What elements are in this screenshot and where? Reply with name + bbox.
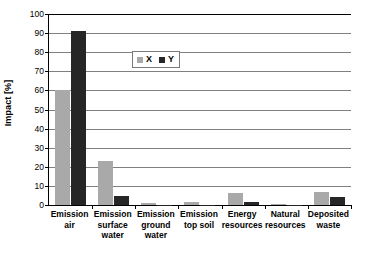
- y-axis-tick-label: 60: [14, 86, 44, 95]
- x-axis-category-label: Emissionair: [48, 209, 91, 230]
- x-axis-category-label-line: waste: [307, 220, 350, 231]
- plot-area: [48, 14, 351, 206]
- y-axis-title-label: Impact [%]: [3, 79, 13, 126]
- y-axis-tick-label: 10: [14, 182, 44, 191]
- bar-group: [265, 14, 308, 205]
- x-axis-category-labels: EmissionairEmissionsurfacewaterEmissiong…: [48, 209, 350, 254]
- bar-series-x: [141, 203, 156, 205]
- x-axis-category-label-line: surface: [91, 220, 134, 231]
- x-axis-category-label-line: air: [48, 220, 91, 231]
- y-axis-tick-label: 40: [14, 124, 44, 133]
- y-axis-tick-label: 80: [14, 48, 44, 57]
- bar-series-y: [114, 196, 129, 205]
- x-axis-category-label-line: ground: [134, 220, 177, 231]
- bar-series-x: [314, 192, 329, 205]
- x-axis-category-label-line: resources: [221, 220, 264, 231]
- y-axis-tick-label: 0: [14, 201, 44, 210]
- legend-swatch-icon: [159, 57, 165, 63]
- x-axis-category-label-line: Natural: [264, 209, 307, 220]
- bar-series-y: [330, 197, 345, 205]
- x-axis-category-label-line: Energy: [221, 209, 264, 220]
- bar-series-x: [228, 193, 243, 205]
- bar-group: [92, 14, 135, 205]
- bar-series-x: [98, 161, 113, 205]
- bar-chart: Impact [%] 1009080706050403020100 XY Emi…: [0, 0, 370, 254]
- x-axis-category-label: Emissionsurfacewater: [91, 209, 134, 241]
- x-axis-category-label-line: water: [134, 230, 177, 241]
- y-axis-tick-label: 50: [14, 105, 44, 114]
- x-axis-category-label-line: Emission: [177, 209, 220, 220]
- legend-item-x[interactable]: X: [137, 55, 152, 64]
- x-axis-category-label: Emissiongroundwater: [134, 209, 177, 241]
- x-axis-category-label-line: Emission: [91, 209, 134, 220]
- y-axis-tick-label: 90: [14, 29, 44, 38]
- bar-group: [49, 14, 92, 205]
- x-axis-tickmark: [351, 205, 352, 209]
- y-axis-tick-label: 20: [14, 163, 44, 172]
- bar-series-y: [71, 31, 86, 205]
- y-axis-tick-label: 30: [14, 143, 44, 152]
- bar-group: [135, 14, 178, 205]
- bar-group: [178, 14, 221, 205]
- x-axis-category-label: Naturalresources: [264, 209, 307, 230]
- bar-series-y: [244, 202, 259, 205]
- x-axis-category-label: Energyresources: [221, 209, 264, 230]
- bar-series-x: [184, 202, 199, 205]
- bar-series-x: [55, 90, 70, 205]
- x-axis-category-label: Emissiontop soil: [177, 209, 220, 230]
- x-axis-category-label-line: water: [91, 230, 134, 241]
- chart-legend: XY: [132, 51, 180, 68]
- y-axis-tick-label: 100: [14, 10, 44, 19]
- x-axis-category-label-line: resources: [264, 220, 307, 231]
- x-axis-category-label-line: Emission: [134, 209, 177, 220]
- bar-group: [308, 14, 351, 205]
- legend-item-y[interactable]: Y: [159, 55, 174, 64]
- x-axis-category-label-line: Deposited: [307, 209, 350, 220]
- legend-label: X: [146, 55, 152, 64]
- bar-group: [222, 14, 265, 205]
- x-axis-category-label-line: top soil: [177, 220, 220, 231]
- y-axis-tickmark: [45, 205, 49, 206]
- bar-series-x: [271, 204, 286, 205]
- bars-layer: [49, 14, 351, 205]
- y-axis-tick-labels: 1009080706050403020100: [14, 14, 44, 205]
- y-axis-tick-label: 70: [14, 67, 44, 76]
- legend-label: Y: [168, 55, 174, 64]
- x-axis-category-label-line: Emission: [48, 209, 91, 220]
- legend-swatch-icon: [137, 57, 143, 63]
- x-axis-category-label: Depositedwaste: [307, 209, 350, 230]
